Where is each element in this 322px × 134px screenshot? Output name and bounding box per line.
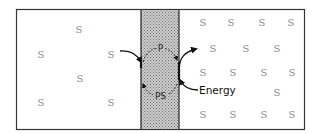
solute-s: S xyxy=(274,87,281,98)
solute-s: S xyxy=(259,17,266,28)
solute-s: S xyxy=(289,67,296,78)
solute-s: S xyxy=(108,49,115,60)
solute-s: S xyxy=(210,43,217,54)
carrier-label-ps: PS xyxy=(155,91,166,101)
solute-s: S xyxy=(200,67,207,78)
solute-s: S xyxy=(77,73,84,84)
energy-label: Energy xyxy=(199,84,236,96)
membrane xyxy=(141,10,179,129)
solute-s: S xyxy=(200,109,207,120)
solute-s: S xyxy=(108,97,115,108)
solute-s: S xyxy=(76,24,83,35)
solute-s: S xyxy=(38,97,45,108)
solute-s: S xyxy=(261,109,268,120)
solute-s: S xyxy=(261,67,268,78)
solute-s: S xyxy=(289,109,296,120)
solute-s: S xyxy=(274,43,281,54)
solute-s: S xyxy=(230,67,237,78)
solute-s: S xyxy=(243,43,250,54)
solute-s: S xyxy=(288,17,295,28)
carrier-label-p: P xyxy=(158,43,164,53)
solute-s: S xyxy=(38,49,45,60)
solute-s: S xyxy=(200,17,207,28)
solute-s: S xyxy=(228,17,235,28)
solute-s: S xyxy=(230,109,237,120)
carrier-transport-diagram: SSSSSS SSSSSSSSSSSSSSSS P PS Energy xyxy=(0,0,322,134)
